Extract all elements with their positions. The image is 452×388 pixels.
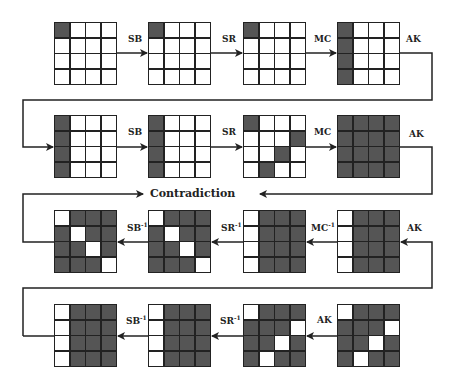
state-cell xyxy=(196,227,210,241)
state-cell xyxy=(149,321,163,335)
state-cell xyxy=(338,242,352,256)
state-cell xyxy=(354,321,368,335)
state-cell xyxy=(275,39,289,53)
state-cell xyxy=(260,116,274,130)
state-cell xyxy=(180,305,194,319)
state-cell xyxy=(291,242,305,256)
state-cell xyxy=(102,116,116,130)
state-grid-12 xyxy=(337,210,400,273)
state-cell xyxy=(275,227,289,241)
op-label-sr: SR-1 xyxy=(220,314,241,326)
state-cell xyxy=(149,305,163,319)
state-cell xyxy=(369,258,383,272)
state-cell xyxy=(180,116,194,130)
op-label-sb: SB xyxy=(128,127,142,137)
state-cell xyxy=(71,258,85,272)
state-cell xyxy=(149,23,163,37)
state-cell xyxy=(338,211,352,225)
state-grid-13 xyxy=(54,304,117,367)
state-cell xyxy=(196,116,210,130)
state-cell xyxy=(354,258,368,272)
state-cell xyxy=(244,227,258,241)
state-cell xyxy=(149,39,163,53)
state-cell xyxy=(291,39,305,53)
state-cell xyxy=(71,39,85,53)
state-cell xyxy=(71,54,85,68)
state-cell xyxy=(165,70,179,84)
state-cell xyxy=(369,163,383,177)
state-cell xyxy=(291,163,305,177)
state-cell xyxy=(71,336,85,350)
op-label-sr: SR xyxy=(222,34,236,44)
state-cell xyxy=(55,39,69,53)
state-cell xyxy=(149,352,163,366)
state-cell xyxy=(275,336,289,350)
state-cell xyxy=(149,116,163,130)
state-cell xyxy=(275,132,289,146)
state-cell xyxy=(260,352,274,366)
state-cell xyxy=(102,258,116,272)
state-cell xyxy=(196,70,210,84)
state-cell xyxy=(385,211,399,225)
state-cell xyxy=(369,211,383,225)
state-cell xyxy=(165,321,179,335)
state-cell xyxy=(180,336,194,350)
state-cell xyxy=(354,39,368,53)
state-cell xyxy=(165,227,179,241)
state-cell xyxy=(55,147,69,161)
state-cell xyxy=(291,258,305,272)
state-cell xyxy=(102,305,116,319)
state-cell xyxy=(275,116,289,130)
state-cell xyxy=(86,147,100,161)
state-cell xyxy=(102,242,116,256)
state-cell xyxy=(354,163,368,177)
state-cell xyxy=(55,116,69,130)
state-cell xyxy=(338,39,352,53)
state-cell xyxy=(338,54,352,68)
state-cell xyxy=(71,132,85,146)
state-cell xyxy=(102,54,116,68)
state-cell xyxy=(338,258,352,272)
state-cell xyxy=(196,147,210,161)
state-grid-4 xyxy=(337,22,400,85)
state-cell xyxy=(196,321,210,335)
state-cell xyxy=(180,352,194,366)
state-cell xyxy=(180,321,194,335)
state-cell xyxy=(275,305,289,319)
op-label-ak: AK xyxy=(407,223,422,233)
state-cell xyxy=(149,132,163,146)
state-cell xyxy=(275,54,289,68)
state-cell xyxy=(165,39,179,53)
state-cell xyxy=(86,70,100,84)
state-cell xyxy=(86,242,100,256)
state-cell xyxy=(149,242,163,256)
state-cell xyxy=(385,70,399,84)
state-grid-3 xyxy=(243,22,306,85)
state-grid-10 xyxy=(148,210,211,273)
state-cell xyxy=(338,227,352,241)
state-cell xyxy=(102,163,116,177)
state-cell xyxy=(291,116,305,130)
state-cell xyxy=(180,211,194,225)
state-cell xyxy=(275,70,289,84)
state-cell xyxy=(149,147,163,161)
state-cell xyxy=(291,54,305,68)
state-cell xyxy=(196,258,210,272)
state-cell xyxy=(291,321,305,335)
state-cell xyxy=(260,147,274,161)
state-cell xyxy=(165,242,179,256)
op-label-ak: AK xyxy=(409,129,424,139)
state-cell xyxy=(165,147,179,161)
state-grid-8 xyxy=(337,115,400,178)
state-cell xyxy=(369,242,383,256)
state-cell xyxy=(354,23,368,37)
state-cell xyxy=(338,336,352,350)
state-cell xyxy=(180,70,194,84)
op-label-ak: AK xyxy=(406,34,421,44)
state-cell xyxy=(71,305,85,319)
state-cell xyxy=(55,336,69,350)
state-grid-5 xyxy=(54,115,117,178)
state-cell xyxy=(244,116,258,130)
state-cell xyxy=(102,70,116,84)
state-cell xyxy=(149,336,163,350)
